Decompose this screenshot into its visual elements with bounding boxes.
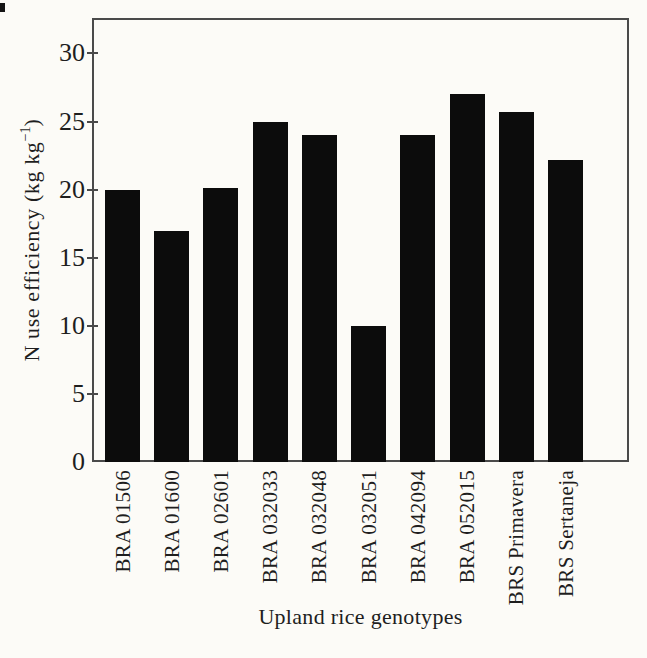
bar-chart-figure: N use efficiency (kg kg−1) Upland rice g… (0, 0, 647, 658)
bar-bra-032048 (302, 135, 337, 462)
y-tick-mark-5 (87, 393, 98, 395)
scan-artifact (0, 3, 5, 12)
x-tick-label-bra-032033: BRA 032033 (258, 470, 282, 583)
bar-bra-052015 (450, 94, 485, 462)
x-tick-label-bra-052015: BRA 052015 (455, 470, 479, 583)
x-tick-label-bra-02601: BRA 02601 (209, 470, 233, 572)
y-tick-label-0: 0 (33, 447, 85, 477)
x-tick-label-bra-032048: BRA 032048 (307, 470, 331, 583)
y-tick-label-25: 25 (33, 107, 85, 137)
bar-bra-01600 (154, 231, 189, 463)
bar-brs-sertaneja (548, 160, 583, 462)
x-tick-label-bra-032051: BRA 032051 (357, 470, 381, 583)
y-tick-mark-10 (87, 325, 98, 327)
x-tick-label-brs-primavera: BRS Primavera (504, 470, 528, 605)
x-tick-label-bra-01506: BRA 01506 (111, 470, 135, 572)
y-tick-label-5: 5 (33, 379, 85, 409)
bar-bra-042094 (400, 135, 435, 462)
y-tick-label-30: 30 (33, 38, 85, 68)
bar-brs-primavera (499, 112, 534, 462)
x-tick-label-bra-042094: BRA 042094 (406, 470, 430, 583)
y-tick-label-15: 15 (33, 243, 85, 273)
bar-bra-02601 (203, 188, 238, 462)
y-tick-mark-20 (87, 189, 98, 191)
y-tick-mark-15 (87, 257, 98, 259)
x-axis-title: Upland rice genotypes (92, 604, 629, 630)
bar-bra-01506 (105, 190, 140, 462)
bar-bra-032051 (351, 326, 386, 462)
x-tick-label-bra-01600: BRA 01600 (160, 470, 184, 572)
y-tick-label-20: 20 (33, 175, 85, 205)
y-tick-mark-25 (87, 121, 98, 123)
x-tick-label-brs-sertaneja: BRS Sertaneja (554, 470, 578, 597)
bar-bra-032033 (253, 122, 288, 463)
y-tick-label-10: 10 (33, 311, 85, 341)
y-tick-mark-30 (87, 52, 98, 54)
y-axis-title-superscript: −1 (17, 126, 33, 141)
